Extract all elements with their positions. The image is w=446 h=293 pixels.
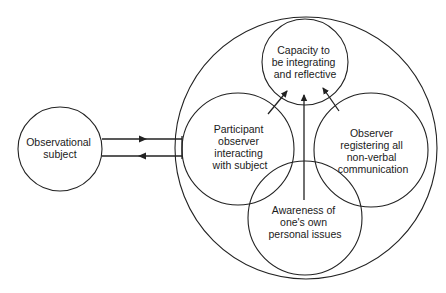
observer-label: Observer registering all non-verbal comm… (338, 127, 409, 175)
arrow-left-icon (138, 153, 146, 160)
arrow-right-icon (139, 136, 147, 143)
node-capacity: Capacity to be integrating and reflectiv… (262, 19, 348, 105)
connector-arrows (102, 136, 182, 160)
capacity-label: Capacity to be integrating and reflectiv… (272, 44, 339, 80)
diagram-canvas: Observational subject Capacity to be int… (0, 0, 446, 293)
node-participant: Participant observer interacting with su… (182, 93, 294, 205)
participant-label: Participant observer interacting with su… (212, 123, 268, 171)
node-awareness: Awareness of one's own personal issues (248, 161, 362, 275)
awareness-label: Awareness of one's own personal issues (269, 204, 342, 240)
node-observer: Observer registering all non-verbal comm… (314, 93, 428, 207)
node-observational-subject: Observational subject (18, 107, 102, 191)
observational-subject-label: Observational subject (26, 136, 94, 160)
